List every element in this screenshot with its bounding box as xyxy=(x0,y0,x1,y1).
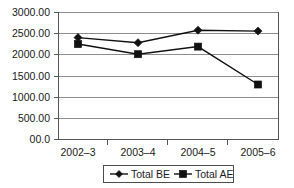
data-point-marker xyxy=(195,43,202,50)
y-tickmarks xyxy=(54,13,58,140)
chart-legend: Total BE Total AE xyxy=(104,166,234,183)
x-tick-label: 2004–5 xyxy=(180,146,215,158)
x-tick-label: 2005–6 xyxy=(240,146,275,158)
y-tick-label: 2000.00 xyxy=(12,48,50,60)
square-marker-icon xyxy=(180,171,187,178)
data-point-marker xyxy=(135,51,142,58)
x-tick-label: 2002–3 xyxy=(60,146,95,158)
line-chart: 3000.00 2500.00 2000.00 1500.00 1000.00 … xyxy=(0,0,294,188)
y-tick-label: 1500.00 xyxy=(12,70,50,82)
data-point-marker xyxy=(75,41,82,48)
x-axis-labels: 2002–3 2003–4 2004–5 2005–6 xyxy=(60,146,275,158)
legend-label: Total BE xyxy=(131,168,170,180)
y-axis-labels: 3000.00 2500.00 2000.00 1500.00 1000.00 … xyxy=(12,6,50,145)
y-tick-label: 500.00 xyxy=(18,112,50,124)
x-tick-label: 2003–4 xyxy=(120,146,155,158)
y-tick-label: 1000.00 xyxy=(12,91,50,103)
y-tick-label: 3000.00 xyxy=(12,6,50,18)
chart-canvas: 3000.00 2500.00 2000.00 1500.00 1000.00 … xyxy=(0,0,294,188)
y-tick-label: 00.0 xyxy=(30,133,51,145)
data-point-marker xyxy=(255,81,262,88)
y-tick-label: 2500.00 xyxy=(12,27,50,39)
x-tickmarks xyxy=(108,140,228,145)
legend-label: Total AE xyxy=(195,168,234,180)
